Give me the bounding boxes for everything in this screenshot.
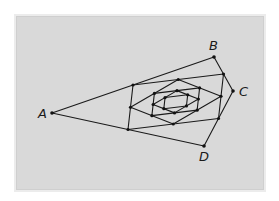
label-c: C [239, 84, 249, 99]
vertex-point [129, 106, 132, 109]
vertex-point [173, 111, 176, 114]
quadrilateral-level-5 [153, 91, 198, 113]
midpoint-quadrilateral-diagram: A B C D [0, 0, 279, 201]
vertex-points [50, 55, 235, 148]
quadrilateral-level-1 [52, 57, 233, 146]
vertex-point [186, 93, 189, 96]
quadrilateral-level-4 [152, 88, 200, 116]
vertex-point [198, 86, 201, 89]
vertex-point [231, 89, 235, 93]
vertex-point [150, 114, 153, 117]
vertex-point [172, 122, 175, 125]
vertex-point [50, 111, 54, 115]
vertex-point [212, 55, 216, 59]
vertex-point [217, 117, 220, 120]
vertex-point [163, 96, 166, 99]
label-d: D [199, 149, 209, 164]
quadrilateral-level-6 [164, 95, 188, 109]
label-b: B [209, 38, 218, 53]
vertex-point [197, 97, 200, 100]
vertex-point [162, 107, 165, 110]
vertex-point [152, 103, 155, 106]
vertex-point [222, 72, 225, 75]
label-a: A [37, 106, 47, 121]
vertex-point [196, 109, 199, 112]
vertex-point [175, 89, 178, 92]
nested-quadrilaterals [52, 57, 233, 146]
vertex-point [202, 144, 206, 148]
vertex-point [131, 83, 134, 86]
vertex-point [185, 104, 188, 107]
vertex-point [177, 78, 180, 81]
quadrilateral-level-3 [131, 80, 222, 125]
vertex-point [153, 92, 156, 95]
vertex-point [126, 128, 129, 131]
vertex-point [219, 95, 222, 98]
